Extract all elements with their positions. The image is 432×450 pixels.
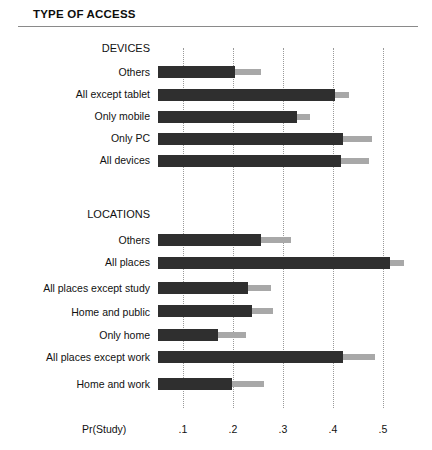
row-label-locations-6: Home and work [76,378,150,390]
bar-row-locations-3 [158,305,408,317]
bar-value [158,378,232,390]
row-label-locations-0: Others [118,234,150,246]
x-tick-.1: .1 [179,423,188,435]
bar-value [158,234,261,246]
row-label-locations-1: All places [105,256,150,268]
plot-area [158,48,408,408]
bar-row-devices-2 [158,111,408,123]
bar-value [158,66,235,78]
x-tick-.3: .3 [279,423,288,435]
bar-row-locations-4 [158,329,408,341]
bar-value [158,133,343,145]
row-label-locations-4: Only home [99,329,150,341]
bar-value [158,89,335,101]
row-label-locations-3: Home and public [71,306,150,318]
bar-row-locations-1 [158,257,408,269]
row-label-devices-1: All except tablet [76,88,150,100]
row-label-locations-5: All places except work [46,351,150,363]
row-label-devices-3: Only PC [111,132,150,144]
section-heading-locations: LOCATIONS [87,208,150,220]
bar-value [158,282,248,294]
row-label-devices-4: All devices [100,154,150,166]
section-heading-devices: DEVICES [102,42,150,54]
category-label-column: DEVICES Others All except tablet Only mo… [0,0,150,450]
figure-type-of-access: TYPE OF ACCESS DEVICES Others All except… [0,0,432,450]
bar-row-locations-2 [158,282,408,294]
bar-value [158,305,252,317]
x-tick-.2: .2 [229,423,238,435]
bar-row-locations-0 [158,234,408,246]
bar-row-locations-5 [158,351,408,363]
bar-row-locations-6 [158,378,408,390]
bar-value [158,329,218,341]
bar-value [158,351,343,363]
row-label-devices-0: Others [118,66,150,78]
bar-value [158,257,390,269]
bar-row-devices-0 [158,66,408,78]
x-tick-.4: .4 [329,423,338,435]
x-tick-.5: .5 [379,423,388,435]
bar-row-devices-1 [158,89,408,101]
bar-row-devices-4 [158,155,408,167]
bar-value [158,155,341,167]
bar-row-devices-3 [158,133,408,145]
row-label-devices-2: Only mobile [95,110,150,122]
bar-value [158,111,297,123]
row-label-locations-2: All places except study [43,282,150,294]
x-axis-label: Pr(Study) [82,423,126,435]
